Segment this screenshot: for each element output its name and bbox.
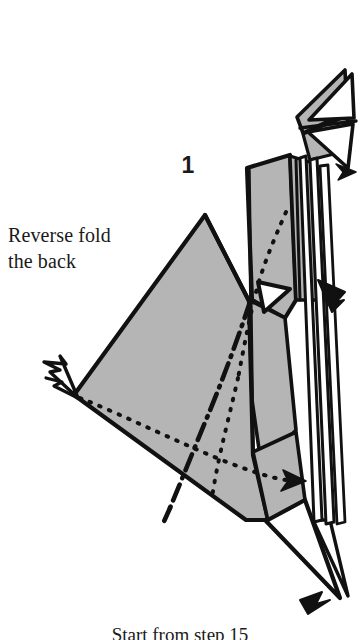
origami-figure [0,0,360,640]
mountain-fold-line-extension [162,508,170,526]
footer-note: Start from step 15 [0,624,360,640]
diagram-page: 1 Reverse fold the back Start from step … [0,0,360,640]
instruction-line-1: Reverse fold [8,222,178,248]
instruction-line-2: the back [8,248,178,274]
step-number: 1 [175,152,201,179]
bottom-cut-arrow [300,592,330,614]
instruction-caption: Reverse fold the back [8,222,178,275]
reverse-fold-arrow-hollow [44,356,78,398]
